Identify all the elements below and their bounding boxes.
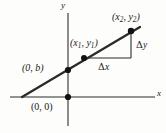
point-1-label: (x1, y1): [70, 38, 98, 50]
point-2-marker: [128, 28, 134, 34]
y-intercept-label: (0, b): [22, 63, 44, 73]
delta-y-label: Δy: [136, 40, 147, 51]
point-1-marker: [81, 55, 87, 61]
origin-point: [65, 94, 71, 100]
x-axis-label: x: [157, 89, 161, 98]
y-intercept-point: [65, 67, 71, 73]
slope-diagram-figure: y x (x2, y2) (x1, y1) (0, b) (0, 0) Δy Δ…: [0, 0, 166, 133]
origin-label: (0, 0): [31, 102, 53, 112]
y-intercept-prefix: (0,: [22, 62, 35, 73]
point-1-close-paren: ): [94, 37, 97, 48]
delta-x-label: Δx: [98, 62, 109, 73]
point-2-close-paren: ): [136, 11, 139, 22]
delta-y-variable: y: [143, 40, 147, 50]
y-axis-label: y: [61, 1, 65, 10]
y-intercept-suffix: ): [40, 62, 43, 73]
delta-x-variable: x: [105, 62, 109, 72]
delta-y-symbol: Δ: [136, 39, 143, 50]
point-2-label: (x2, y2): [112, 12, 140, 24]
delta-x-symbol: Δ: [98, 61, 105, 72]
